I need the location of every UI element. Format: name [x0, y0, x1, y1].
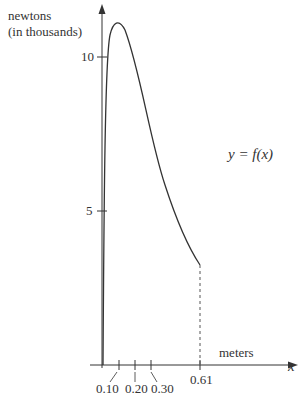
y-axis-arrow-icon: [99, 4, 106, 14]
y-axis-label-1: newtons: [8, 8, 51, 24]
x-tick-label-061: 0.61: [190, 372, 213, 388]
y-axis-label-2: (in thousands): [8, 24, 82, 40]
x-axis-symbol: x: [288, 358, 295, 375]
x-tick-label-010: 0.10: [96, 381, 119, 397]
curve-f: [103, 23, 200, 365]
y-tick-label-10: 10: [81, 49, 94, 65]
curve-label: y = f(x): [228, 146, 273, 163]
x-axis-label: meters: [219, 345, 254, 361]
chart-canvas: [0, 0, 306, 411]
x-tick-label-030: 0.30: [151, 381, 174, 397]
y-tick-label-5: 5: [86, 203, 93, 219]
x-tick-label-020: 0.20: [125, 381, 148, 397]
